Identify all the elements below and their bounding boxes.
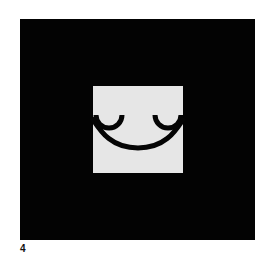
figure-number-label: 4: [20, 243, 26, 254]
smile-face-glyph-icon: [0, 0, 271, 267]
smile-curve: [92, 118, 184, 148]
